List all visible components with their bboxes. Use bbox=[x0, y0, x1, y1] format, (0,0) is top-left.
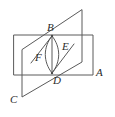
arc-left-bd bbox=[45, 36, 52, 73]
vertex-label-F: F bbox=[35, 52, 42, 63]
rectangle-plane-A bbox=[14, 35, 93, 75]
vertex-label-D: D bbox=[53, 75, 61, 86]
geometry-figure: B E F D A C bbox=[0, 0, 115, 117]
point-B-dot bbox=[51, 35, 53, 37]
vertex-label-E: E bbox=[62, 41, 69, 52]
arc-right-bd bbox=[52, 36, 59, 73]
vertex-label-B: B bbox=[47, 22, 54, 33]
vertex-label-C: C bbox=[10, 94, 17, 105]
vertex-label-A: A bbox=[96, 67, 103, 78]
